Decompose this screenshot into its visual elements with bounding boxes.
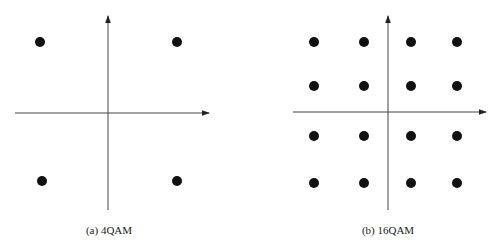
constellation-point [37,176,47,186]
constellation-point [452,131,462,141]
constellation-point [359,131,369,141]
constellation-point [359,81,369,91]
constellation-point [452,37,462,47]
constellation-point [406,37,416,47]
constellation-point [309,37,319,47]
constellation-point [309,178,319,188]
panel-4qam [15,16,209,210]
constellation-point [406,131,416,141]
constellation-point [406,81,416,91]
caption-4qam: (a) 4QAM [86,224,132,236]
constellation-point [172,37,182,47]
constellation-point [452,178,462,188]
constellation-point [406,178,416,188]
constellation-point [172,176,182,186]
constellation-point [309,81,319,91]
constellation-point [359,37,369,47]
qam-constellation-figure [0,0,496,250]
constellation-point [35,37,45,47]
constellation-point [452,81,462,91]
constellation-point [359,178,369,188]
caption-16qam: (b) 16QAM [362,224,414,236]
panel-16qam [293,16,486,210]
constellation-point [309,131,319,141]
